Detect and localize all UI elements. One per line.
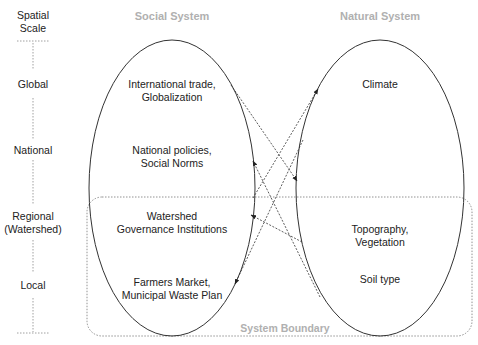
natural-system-title: Natural System xyxy=(330,10,430,22)
natural-item-climate: Climate xyxy=(330,78,430,91)
diagram-canvas xyxy=(0,0,478,345)
social-item-local: Farmers Market, Municipal Waste Plan xyxy=(107,276,237,302)
social-item-national: National policies, Social Norms xyxy=(112,144,232,170)
spatial-scale-title: Spatial Scale xyxy=(2,9,64,35)
arrow-natural-to-farmers xyxy=(235,140,303,284)
scale-level-national: National xyxy=(2,144,64,157)
social-item-regional: Watershed Governance Institutions xyxy=(107,210,237,236)
social-system-title: Social System xyxy=(122,10,222,22)
natural-item-topography: Topography, Vegetation xyxy=(330,223,430,249)
scale-level-local: Local xyxy=(2,279,64,292)
arrow-watershed-to-climate xyxy=(253,89,318,198)
natural-item-soil: Soil type xyxy=(330,273,430,286)
arrow-global-to-natural xyxy=(231,85,297,181)
system-boundary-label: System Boundary xyxy=(220,322,350,334)
social-item-global: International trade, Globalization xyxy=(112,78,232,104)
scale-level-regional: Regional (Watershed) xyxy=(2,210,64,236)
scale-level-global: Global xyxy=(2,78,64,91)
arrow-topography-to-watershed xyxy=(251,215,302,242)
